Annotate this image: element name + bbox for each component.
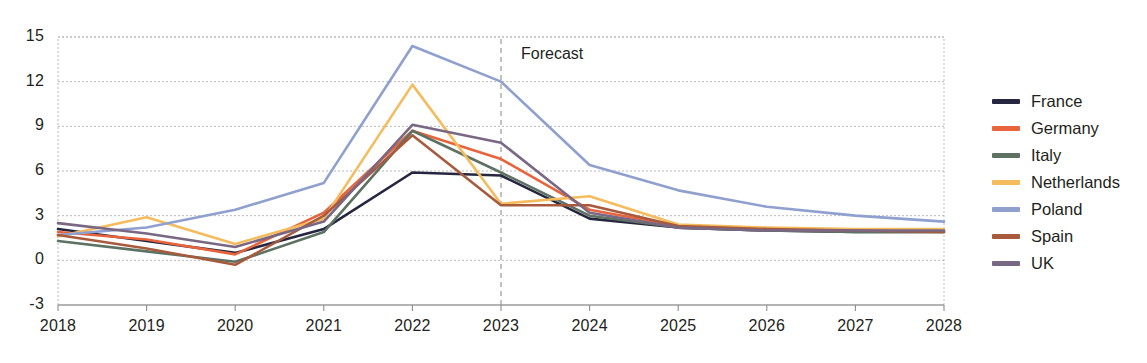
forecast-annotation-label: Forecast <box>521 45 583 63</box>
legend-item-label: Poland <box>1031 200 1082 219</box>
legend-color-swatch <box>992 99 1020 104</box>
legend-item-label: Netherlands <box>1031 173 1120 192</box>
legend-color-swatch <box>992 261 1020 266</box>
x-tick-label: 2022 <box>377 317 447 335</box>
x-tick-label: 2020 <box>200 317 270 335</box>
series-line-spain <box>58 135 944 265</box>
legend-item-france[interactable]: France <box>992 88 1147 115</box>
y-tick-label: -3 <box>10 295 44 313</box>
y-tick-label: 12 <box>10 72 44 90</box>
legend-color-swatch <box>992 126 1020 131</box>
x-tick-label: 2018 <box>23 317 93 335</box>
legend-item-label: UK <box>1031 254 1054 273</box>
x-tick-label: 2021 <box>289 317 359 335</box>
legend-item-netherlands[interactable]: Netherlands <box>992 169 1147 196</box>
legend-item-label: Germany <box>1031 119 1099 138</box>
x-tick-label: 2023 <box>466 317 536 335</box>
chart-legend: FranceGermanyItalyNetherlandsPolandSpain… <box>992 88 1147 277</box>
legend-item-poland[interactable]: Poland <box>992 196 1147 223</box>
legend-item-uk[interactable]: UK <box>992 250 1147 277</box>
y-tick-label: 0 <box>10 250 44 268</box>
legend-color-swatch <box>992 207 1020 212</box>
legend-color-swatch <box>992 234 1020 239</box>
y-tick-label: 3 <box>10 206 44 224</box>
legend-color-swatch <box>992 180 1020 185</box>
legend-item-label: Spain <box>1031 227 1073 246</box>
y-tick-label: 15 <box>10 27 44 45</box>
x-tick-label: 2019 <box>112 317 182 335</box>
legend-item-spain[interactable]: Spain <box>992 223 1147 250</box>
y-tick-label: 6 <box>10 161 44 179</box>
x-tick-label: 2028 <box>909 317 979 335</box>
legend-item-label: France <box>1031 92 1082 111</box>
legend-item-italy[interactable]: Italy <box>992 142 1147 169</box>
x-tick-label: 2024 <box>555 317 625 335</box>
legend-item-label: Italy <box>1031 146 1061 165</box>
line-chart: 15129630-3 20182019202020212022202320242… <box>0 0 1147 363</box>
x-tick-label: 2027 <box>820 317 890 335</box>
legend-color-swatch <box>992 153 1020 158</box>
x-tick-label: 2025 <box>643 317 713 335</box>
legend-item-germany[interactable]: Germany <box>992 115 1147 142</box>
y-tick-label: 9 <box>10 116 44 134</box>
x-tick-label: 2026 <box>732 317 802 335</box>
